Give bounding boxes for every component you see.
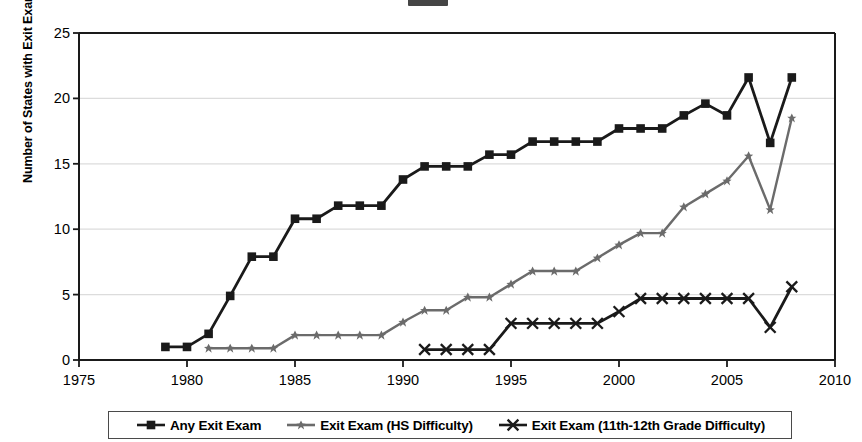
series-0	[161, 73, 796, 351]
data-marker-square	[204, 330, 213, 339]
x-tick-label: 2005	[711, 372, 743, 388]
y-tick-label: 5	[36, 287, 70, 303]
data-marker-square	[550, 137, 559, 146]
data-marker-square	[356, 201, 365, 210]
data-marker-square	[701, 99, 710, 108]
chart-legend: Any Exit ExamExit Exam (HS Difficulty)Ex…	[108, 411, 792, 439]
series-line	[209, 118, 792, 348]
data-marker-square	[464, 162, 473, 171]
data-marker-square	[442, 162, 451, 171]
data-marker-square	[593, 137, 602, 146]
y-tick-label: 25	[36, 25, 70, 41]
legend-label: Exit Exam (11th-12th Grade Difficulty)	[532, 418, 765, 433]
y-tick-label: 10	[36, 221, 70, 237]
legend-label: Exit Exam (HS Difficulty)	[320, 418, 473, 433]
x-tick-label: 1990	[387, 372, 419, 388]
data-marker-square	[485, 150, 494, 159]
data-marker-square	[269, 252, 278, 261]
series-1	[204, 113, 796, 352]
data-marker-square	[788, 73, 797, 82]
data-marker-square	[680, 111, 689, 120]
data-marker-square	[377, 201, 386, 210]
legend-item-2[interactable]: Exit Exam (11th-12th Grade Difficulty)	[497, 418, 765, 433]
data-marker-square	[226, 292, 235, 301]
y-tick-label: 0	[36, 352, 70, 368]
y-tick-label: 20	[36, 90, 70, 106]
data-marker-square	[161, 343, 170, 352]
x-tick-label: 1980	[171, 372, 203, 388]
title-fragment	[408, 0, 448, 6]
data-marker-square	[312, 214, 321, 223]
data-marker-star	[766, 205, 775, 214]
data-marker-square	[399, 175, 408, 184]
x-tick-label: 1995	[495, 372, 527, 388]
data-marker-square	[528, 137, 537, 146]
x-tick-label: 2000	[603, 372, 635, 388]
data-marker-square	[572, 137, 581, 146]
x-tick-label: 2010	[819, 372, 851, 388]
data-marker-square	[183, 343, 192, 352]
data-marker-square	[744, 73, 753, 82]
legend-label: Any Exit Exam	[170, 418, 261, 433]
x-tick-label: 1975	[63, 372, 95, 388]
data-marker-square	[766, 139, 775, 148]
legend-item-1[interactable]: Exit Exam (HS Difficulty)	[285, 418, 473, 433]
data-marker-square	[291, 214, 300, 223]
data-marker-square	[507, 150, 516, 159]
data-marker-square	[248, 252, 257, 261]
series-line	[165, 77, 791, 346]
data-marker-square	[723, 111, 732, 120]
legend-swatch-star-icon	[285, 418, 317, 432]
legend-swatch-square-icon	[135, 418, 167, 432]
data-marker-square	[420, 162, 429, 171]
data-marker-square	[636, 124, 645, 133]
data-marker-square	[147, 421, 156, 430]
data-marker-square	[658, 124, 667, 133]
chart-container: Number of States with Exit Exam 05101520…	[0, 0, 862, 442]
data-marker-square	[334, 201, 343, 210]
x-tick-label: 1985	[279, 372, 311, 388]
legend-item-0[interactable]: Any Exit Exam	[135, 418, 261, 433]
data-marker-square	[615, 124, 624, 133]
y-tick-label: 15	[36, 156, 70, 172]
series-2	[419, 281, 797, 355]
legend-swatch-x-icon	[497, 418, 529, 432]
